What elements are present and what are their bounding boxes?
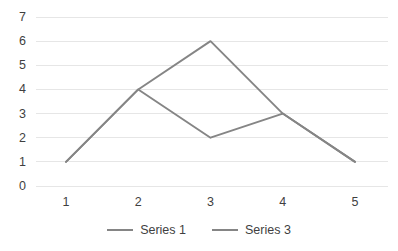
y-tick-label: 0 <box>6 180 26 193</box>
y-tick-label: 4 <box>6 83 26 96</box>
x-tick-label: 1 <box>54 196 78 209</box>
legend-label: Series 3 <box>245 224 291 237</box>
chart-legend: Series 1Series 3 <box>0 224 398 237</box>
plot-area <box>0 0 398 251</box>
legend-line-icon <box>212 229 238 231</box>
x-tick-label: 2 <box>126 196 150 209</box>
legend-item[interactable]: Series 1 <box>107 224 186 237</box>
y-tick-label: 1 <box>6 156 26 169</box>
y-tick-label: 2 <box>6 132 26 145</box>
series-line-2 <box>66 89 355 161</box>
y-tick-label: 6 <box>6 35 26 48</box>
x-tick-label: 4 <box>271 196 295 209</box>
series-lines <box>66 41 355 162</box>
legend-item[interactable]: Series 3 <box>212 224 291 237</box>
x-tick-label: 5 <box>343 196 367 209</box>
legend-line-icon <box>107 229 133 231</box>
y-tick-label: 3 <box>6 108 26 121</box>
legend-label: Series 1 <box>140 224 186 237</box>
y-tick-label: 5 <box>6 59 26 72</box>
line-chart: 01234567 12345 Series 1Series 3 <box>0 0 398 251</box>
x-tick-label: 3 <box>199 196 223 209</box>
y-tick-label: 7 <box>6 11 26 24</box>
series-line-1 <box>66 41 355 162</box>
